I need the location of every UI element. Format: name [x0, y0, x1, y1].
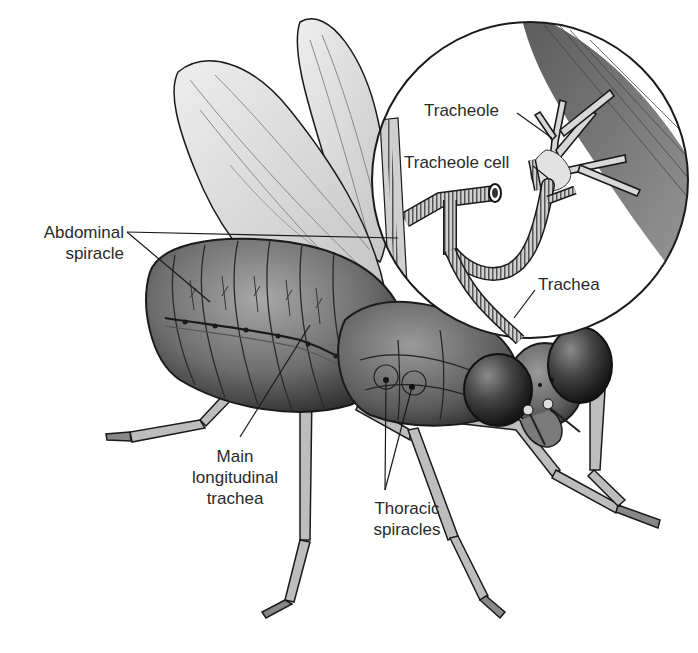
label-line: Thoracic [352, 498, 462, 519]
label-line: Abdominal [28, 222, 124, 243]
label-abdominal-spiracle: Abdominal spiracle [28, 222, 124, 264]
illustration [0, 0, 698, 653]
label-main-longitudinal-trachea: Main longitudinal trachea [180, 446, 290, 509]
label-tracheole: Tracheole [424, 100, 499, 121]
label-tracheole-cell: Tracheole cell [404, 152, 509, 173]
label-line: spiracle [28, 243, 124, 264]
label-line: Trachea [538, 274, 600, 295]
label-line: Tracheole cell [404, 152, 509, 173]
label-line: trachea [180, 488, 290, 509]
label-line: longitudinal [180, 467, 290, 488]
label-thoracic-spiracles: Thoracic spiracles [352, 498, 462, 540]
label-line: spiracles [352, 519, 462, 540]
label-line: Tracheole [424, 100, 499, 121]
label-trachea: Trachea [538, 274, 600, 295]
label-line: Main [180, 446, 290, 467]
insect-tracheal-system-diagram: Abdominal spiracle Tracheole Tracheole c… [0, 0, 698, 653]
